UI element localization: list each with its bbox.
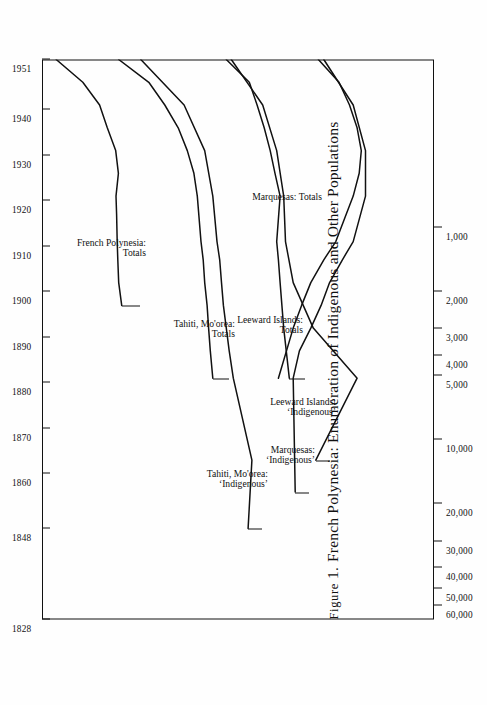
population-tick-label: 5,000 [446, 380, 468, 390]
population-tick [434, 226, 442, 227]
year-tick-label: 1940 [12, 113, 31, 123]
year-tick-label: 1900 [12, 295, 31, 305]
population-tick [434, 587, 442, 588]
year-tick-label: 1880 [12, 386, 31, 396]
series-label-line: Leeward Islands: [237, 314, 303, 324]
population-tick [434, 604, 442, 605]
population-tick [434, 327, 442, 328]
population-tick [434, 438, 442, 439]
year-tick-label: 1910 [12, 250, 31, 260]
series-line [140, 59, 251, 528]
population-tick-label: 50,000 [446, 592, 473, 602]
series-line [56, 59, 122, 305]
series-label-line: Marquesas: Totals [252, 192, 322, 202]
series-label-line: French Polynesia: [76, 238, 145, 248]
population-tick [434, 375, 442, 376]
series-label-line: Tahiti, Mo'orea: [206, 469, 267, 479]
population-tick-label: 30,000 [446, 545, 473, 555]
series-label: Leeward Islands:Totals [237, 314, 303, 335]
series-line [293, 59, 365, 492]
series-label-leader [121, 305, 139, 306]
series-label: Leeward Islands:‘Indigenous’ [269, 396, 335, 417]
series-label: French Polynesia:Totals [76, 238, 145, 259]
year-tick-label: 1848 [12, 532, 31, 542]
series-label-leader [248, 528, 262, 529]
series-label: Marquesas:‘Indigenous’ [266, 445, 315, 466]
year-tick-label: 1930 [12, 159, 31, 169]
series-label-leader [212, 378, 228, 379]
series-label-line: Tahiti, Mo'orea: [173, 318, 234, 328]
series-label-line: ‘Indigenous’ [206, 479, 267, 489]
year-tick-label: 1870 [12, 432, 31, 442]
series-label-line: Totals [173, 329, 234, 339]
year-tick-label: 1890 [12, 341, 31, 351]
figure-page: Figure1.French Polynesia: Enumeration of… [0, 0, 487, 705]
series-label-line: ‘Indigenous’ [269, 406, 335, 416]
data-lines [42, 59, 434, 619]
population-tick-label: 60,000 [446, 609, 473, 619]
population-tick [434, 540, 442, 541]
series-label: Tahiti, Mo'orea:Totals [173, 318, 234, 339]
series-label-line: Marquesas: [266, 445, 315, 455]
series-label: Marquesas: Totals [252, 192, 322, 202]
population-tick [434, 354, 442, 355]
series-label-line: ‘Indigenous’ [266, 455, 315, 465]
population-tick-label: 20,000 [446, 507, 473, 517]
series-label-leader [315, 460, 329, 461]
series-label: Tahiti, Mo'orea:‘Indigenous’ [206, 469, 267, 490]
population-tick-label: 4,000 [446, 359, 468, 369]
rotated-figure-container: Figure1.French Polynesia: Enumeration of… [24, 30, 464, 675]
population-tick-label: 40,000 [446, 571, 473, 581]
series-label-leader [295, 492, 309, 493]
population-tick-label: 1,000 [446, 231, 468, 241]
population-tick [434, 502, 442, 503]
series-label-leader [289, 378, 305, 379]
year-tick-label: 1828 [12, 623, 31, 633]
population-tick-label: 2,000 [446, 295, 468, 305]
year-tick-label: 1920 [12, 204, 31, 214]
series-label-line: Totals [237, 324, 303, 334]
population-axis: 60,00050,00040,00030,00020,00010,0005,00… [434, 59, 464, 619]
series-label-line: Totals [76, 248, 145, 258]
series-label-line: Leeward Islands: [269, 396, 335, 406]
population-tick-label: 10,000 [446, 443, 473, 453]
population-tick [434, 566, 442, 567]
population-tick-label: 3,000 [446, 332, 468, 342]
population-tick [434, 290, 442, 291]
year-tick-label: 1951 [12, 63, 31, 73]
year-tick-label: 1860 [12, 477, 31, 487]
